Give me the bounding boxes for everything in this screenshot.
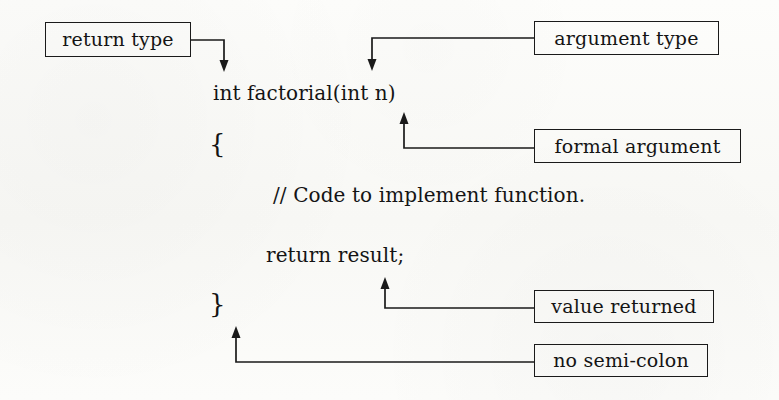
callout-argument-type[interactable]: argument type xyxy=(534,21,719,55)
connector-return-type xyxy=(190,40,229,72)
callout-value-returned[interactable]: value returned xyxy=(534,290,714,323)
connector-value-returned xyxy=(381,277,535,308)
callout-value-returned-label: value returned xyxy=(551,297,696,316)
callout-return-type[interactable]: return type xyxy=(45,22,191,57)
callout-formal-argument-label: formal argument xyxy=(555,137,721,156)
diagram-canvas: return type argument type formal argumen… xyxy=(0,0,779,400)
code-line-close-brace: } xyxy=(209,291,226,317)
callout-no-semi-colon-label: no semi-colon xyxy=(553,351,689,370)
code-line-open-brace: { xyxy=(209,131,226,157)
code-line-return-statement: return result; xyxy=(266,245,404,265)
connector-no-semi-colon xyxy=(232,326,535,362)
callout-formal-argument[interactable]: formal argument xyxy=(534,129,741,163)
code-line-comment: // Code to implement function. xyxy=(273,185,585,205)
callout-no-semi-colon[interactable]: no semi-colon xyxy=(534,344,708,377)
code-line-signature: int factorial(int n) xyxy=(213,83,396,103)
connector-argument-type xyxy=(368,38,535,71)
callout-argument-type-label: argument type xyxy=(554,29,698,48)
connector-formal-argument xyxy=(400,112,535,148)
callout-return-type-label: return type xyxy=(62,30,174,49)
